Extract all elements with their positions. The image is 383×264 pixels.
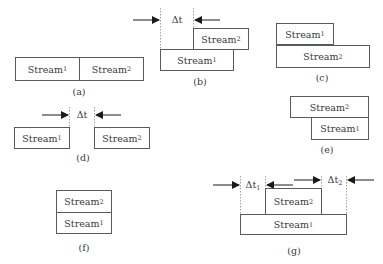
panel-caption: (b) (193, 76, 207, 87)
stream-label: Stream (285, 29, 320, 40)
delta-t-label: Δt (77, 109, 88, 120)
stream-label: Stream (92, 64, 127, 75)
stream-label: Stream (64, 218, 99, 229)
stream-box: Stream2 (290, 96, 369, 118)
stream-box: Stream2 (265, 188, 322, 215)
stream-label: Stream (201, 34, 236, 45)
stream-label: Stream (310, 102, 345, 113)
stream-index: 2 (237, 35, 241, 43)
stream-box: Stream1 (240, 214, 347, 235)
stream-index: 2 (339, 53, 343, 61)
stream-index: 1 (213, 56, 217, 64)
panel-caption: (e) (320, 144, 333, 155)
stream-box: Stream2 (79, 57, 144, 81)
stream-label: Stream (320, 123, 355, 134)
stream-index: 2 (345, 103, 349, 111)
stream-box: Stream1 (311, 117, 369, 140)
stream-box: Stream1 (276, 23, 334, 45)
stream-box: Stream1 (14, 127, 70, 149)
stream-index: 2 (100, 198, 104, 206)
stream-label: Stream (22, 133, 57, 144)
stream-box: Stream2 (94, 127, 150, 149)
stream-label: Stream (64, 196, 99, 207)
delta-t2-label: Δt2 (328, 174, 343, 187)
stream-index: 1 (100, 219, 104, 227)
stream-box: Stream2 (56, 190, 112, 213)
stream-label: Stream (177, 55, 212, 66)
stream-label: Stream (274, 219, 309, 230)
stream-index: 1 (63, 65, 67, 73)
stream-box: Stream2 (276, 45, 370, 68)
stream-label: Stream (28, 64, 63, 75)
stream-index: 1 (356, 125, 360, 133)
stream-label: Stream (303, 51, 338, 62)
stream-index: 1 (58, 134, 62, 142)
stream-index: 1 (309, 221, 313, 229)
panel-caption: (c) (316, 72, 329, 83)
stream-box: Stream1 (56, 212, 112, 234)
stream-box: Stream2 (193, 28, 249, 50)
stream-box: Stream1 (160, 49, 234, 71)
panel-caption: (d) (76, 152, 90, 163)
delta-t1-label: Δt1 (246, 179, 261, 192)
stream-box: Stream1 (15, 57, 80, 81)
panel-caption: (g) (287, 245, 301, 256)
stream-index: 2 (309, 198, 313, 206)
panel-caption: (a) (72, 86, 85, 97)
stream-index: 1 (321, 30, 325, 38)
stream-index: 2 (127, 65, 131, 73)
stream-label: Stream (274, 196, 309, 207)
delta-t-label: Δt (172, 14, 183, 25)
panel-caption: (f) (79, 242, 90, 253)
stream-index: 2 (138, 134, 142, 142)
stream-label: Stream (102, 133, 137, 144)
